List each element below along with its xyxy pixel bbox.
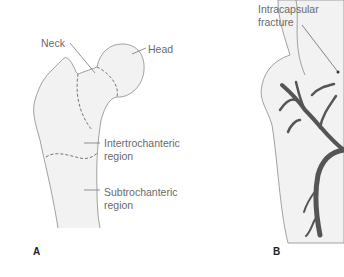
label-intertrochanteric-1: Intertrochanteric <box>104 137 180 149</box>
femur-b <box>261 0 344 243</box>
label-intracapsular-2: fracture <box>258 16 294 28</box>
label-subtrochanteric-2: region <box>104 199 133 211</box>
label-neck: Neck <box>41 37 65 49</box>
panel-label-a: A <box>33 246 40 257</box>
label-subtrochanteric-1: Subtrochanteric <box>104 186 178 198</box>
label-intracapsular-1: Intracapsular <box>258 3 319 15</box>
label-head: Head <box>148 43 173 55</box>
label-intertrochanteric-2: region <box>104 150 133 162</box>
panel-label-b: B <box>273 246 280 257</box>
